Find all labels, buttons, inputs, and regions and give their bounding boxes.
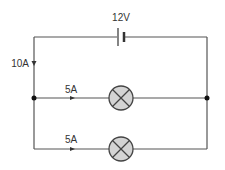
junction-node-right [205,96,210,101]
branch-1-current-label: 5A [65,84,78,95]
lamp-icon [109,137,133,161]
main-current-label: 10A [11,58,29,69]
junction-node-left [32,96,37,101]
battery-icon [118,28,124,46]
branch-2-current-label: 5A [65,134,78,145]
circuit-diagram: 12V 10A 5A 5A [0,0,225,170]
battery-voltage-label: 12V [112,12,130,23]
current-arrow-right-icon [70,96,75,100]
current-arrow-down-icon [32,61,37,66]
lamp-icon [109,86,133,110]
current-arrow-right-icon [70,147,75,151]
